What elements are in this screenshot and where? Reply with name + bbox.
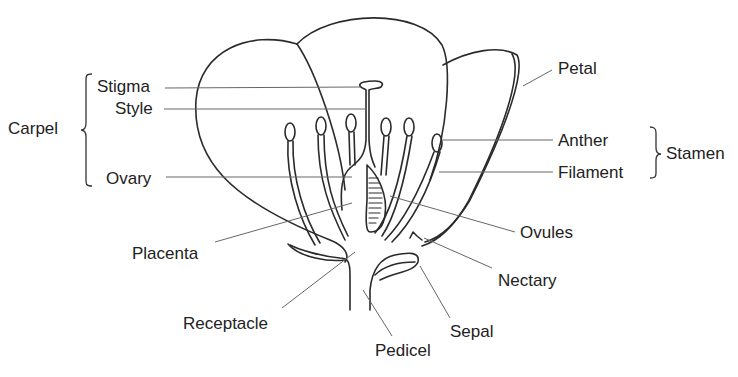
label-sepal: Sepal [450,323,493,340]
label-filament: Filament [558,164,623,181]
label-ovules: Ovules [520,224,573,241]
label-style: Style [115,100,153,117]
label-nectary: Nectary [498,272,557,289]
carpel-brace [81,74,92,186]
label-placenta: Placenta [132,245,198,262]
label-anther: Anther [558,132,608,149]
label-receptacle: Receptacle [183,315,268,332]
label-ovary: Ovary [106,170,151,187]
group-label-carpel: Carpel [8,120,58,137]
group-label-stamen: Stamen [666,145,725,162]
label-petal: Petal [558,60,597,77]
flower-diagram: Carpel Stigma Style Ovary Placenta Recep… [0,0,738,377]
stamens [285,114,442,245]
flower-drawing [0,0,738,377]
label-pedicel: Pedicel [375,342,431,359]
stamen-brace [650,127,661,178]
label-stigma: Stigma [97,78,150,95]
